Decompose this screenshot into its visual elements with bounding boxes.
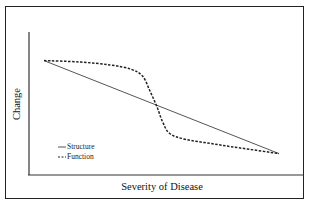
- legend-function-label: Function: [67, 152, 94, 161]
- y-axis-label: Change: [11, 88, 22, 120]
- legend-structure-label: Structure: [67, 142, 95, 151]
- chart-plot: [0, 0, 309, 205]
- legend: [58, 147, 66, 157]
- series-structure-line: [44, 61, 279, 154]
- x-axis-label: Severity of Disease: [121, 181, 203, 192]
- series-layer: [44, 61, 279, 154]
